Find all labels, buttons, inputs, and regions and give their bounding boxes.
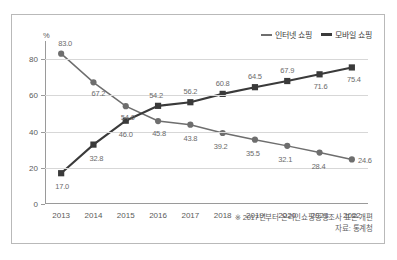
y-tick-label: 40 <box>29 127 38 136</box>
series-line-2 <box>61 67 352 173</box>
data-point-label: 32.8 <box>90 153 104 162</box>
data-point-label: 28.4 <box>312 161 326 170</box>
data-point-label: 83.0 <box>58 38 72 47</box>
data-point-label: 56.2 <box>183 87 197 96</box>
data-point-label: 45.8 <box>152 129 166 138</box>
x-tick-label: 2018 <box>214 211 232 220</box>
data-point-marker[interactable] <box>252 137 258 143</box>
data-point-marker[interactable] <box>349 64 355 70</box>
legend-label-mobile-shopping: 모바일 쇼핑 <box>335 29 372 40</box>
data-point-marker[interactable] <box>284 78 290 84</box>
data-point-label: 71.6 <box>314 82 328 91</box>
data-point-label: 32.1 <box>278 154 292 163</box>
data-point-marker[interactable] <box>349 156 355 162</box>
x-tick-label: 2017 <box>181 211 199 220</box>
x-tick-label: 2016 <box>149 211 167 220</box>
data-point-label: 67.2 <box>92 89 106 98</box>
data-point-marker[interactable] <box>187 122 193 128</box>
chart-figure: % 인터넷 쇼핑 모바일 쇼핑 020406080201320142015201… <box>11 14 385 244</box>
data-point-label: 64.5 <box>248 72 262 81</box>
x-tick-label: 2014 <box>85 211 103 220</box>
legend-swatch-mobile-shopping <box>321 33 332 36</box>
y-axis-unit-label: % <box>43 31 50 40</box>
data-point-marker[interactable] <box>90 141 96 147</box>
series-lines <box>45 41 368 204</box>
data-point-marker[interactable] <box>284 143 290 149</box>
data-point-marker[interactable] <box>155 103 161 109</box>
gridline <box>45 132 368 133</box>
data-point-label: 60.8 <box>216 78 230 87</box>
y-tick-mark <box>41 59 45 60</box>
footnote-note: ※ 2017년부터 온라인쇼핑동향조사 표본 개편 <box>235 212 373 224</box>
y-tick-mark <box>41 132 45 133</box>
data-point-label: 17.0 <box>55 182 69 191</box>
plot-area: 0204060802013201420152016201720182019202… <box>45 41 368 204</box>
data-point-marker[interactable] <box>155 118 161 124</box>
chart-legend: 인터넷 쇼핑 모바일 쇼핑 <box>261 29 372 40</box>
y-tick-label: 80 <box>29 55 38 64</box>
data-point-label: 54.0 <box>121 113 135 122</box>
x-tick-label: 2013 <box>52 211 70 220</box>
data-point-marker[interactable] <box>90 79 96 85</box>
data-point-marker[interactable] <box>58 170 64 176</box>
legend-item-mobile-shopping[interactable]: 모바일 쇼핑 <box>321 29 372 40</box>
series-line-1 <box>61 54 352 160</box>
data-point-marker[interactable] <box>58 51 64 57</box>
data-point-marker[interactable] <box>123 103 129 109</box>
gridline <box>45 59 368 60</box>
data-point-label: 35.5 <box>246 148 260 157</box>
y-tick-label: 60 <box>29 91 38 100</box>
data-point-label: 43.8 <box>183 133 197 142</box>
legend-item-internet-shopping[interactable]: 인터넷 쇼핑 <box>261 29 312 40</box>
data-point-marker[interactable] <box>316 71 322 77</box>
y-tick-mark <box>41 168 45 169</box>
data-point-label: 75.4 <box>347 75 361 84</box>
data-point-label: 54.2 <box>149 90 163 99</box>
x-tick-label: 2015 <box>117 211 135 220</box>
footnote-source: 자료: 통계청 <box>235 223 373 235</box>
data-point-label: 46.0 <box>119 129 133 138</box>
y-tick-label: 0 <box>34 200 38 209</box>
data-point-marker[interactable] <box>187 99 193 105</box>
y-tick-mark <box>41 204 45 205</box>
data-point-label: 39.2 <box>214 142 228 151</box>
y-tick-mark <box>41 95 45 96</box>
data-point-marker[interactable] <box>316 149 322 155</box>
data-point-label: 24.6 <box>358 156 372 165</box>
data-point-marker[interactable] <box>252 84 258 90</box>
y-tick-label: 20 <box>29 163 38 172</box>
legend-label-internet-shopping: 인터넷 쇼핑 <box>275 29 312 40</box>
footnotes: ※ 2017년부터 온라인쇼핑동향조사 표본 개편 자료: 통계청 <box>235 212 373 235</box>
legend-swatch-internet-shopping <box>261 34 272 36</box>
data-point-label: 67.9 <box>280 66 294 75</box>
